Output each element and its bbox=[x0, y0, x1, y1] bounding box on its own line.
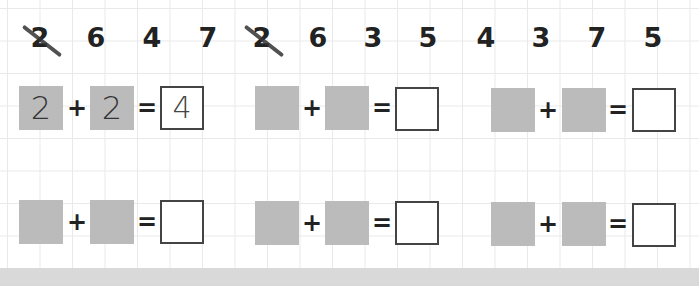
plus-sign: + bbox=[537, 202, 559, 246]
equals-sign: = bbox=[607, 202, 629, 246]
addend-box[interactable] bbox=[491, 88, 535, 132]
addend-box[interactable] bbox=[255, 86, 299, 130]
number-item: 4 bbox=[137, 22, 167, 54]
number-item: 5 bbox=[413, 22, 443, 54]
number-item: 6 bbox=[81, 22, 111, 54]
plus-sign: + bbox=[301, 86, 323, 130]
equals-sign: = bbox=[136, 200, 158, 244]
result-box[interactable]: 4 bbox=[160, 86, 204, 130]
addend-box[interactable] bbox=[90, 200, 134, 244]
plus-sign: + bbox=[66, 200, 88, 244]
plus-sign: + bbox=[301, 201, 323, 245]
result-box[interactable] bbox=[632, 203, 676, 247]
equals-sign: = bbox=[371, 86, 393, 130]
result-box[interactable] bbox=[632, 88, 676, 132]
bottom-band bbox=[0, 268, 699, 286]
result-box[interactable] bbox=[395, 87, 439, 131]
number-item: 6 bbox=[303, 22, 333, 54]
equals-sign: = bbox=[607, 88, 629, 132]
plus-sign: + bbox=[537, 88, 559, 132]
addend-box[interactable] bbox=[562, 88, 606, 132]
equals-sign: = bbox=[371, 201, 393, 245]
plus-sign: + bbox=[66, 86, 88, 130]
addend-box[interactable]: 2 bbox=[19, 86, 63, 130]
number-item: 3 bbox=[526, 22, 556, 54]
addend-box[interactable] bbox=[562, 202, 606, 246]
addend-box[interactable]: 2 bbox=[90, 86, 134, 130]
equals-sign: = bbox=[136, 86, 158, 130]
addend-box[interactable] bbox=[325, 86, 369, 130]
result-box[interactable] bbox=[395, 201, 439, 245]
addend-box[interactable] bbox=[325, 201, 369, 245]
number-item: 7 bbox=[193, 22, 223, 54]
result-box[interactable] bbox=[160, 200, 204, 244]
number-item: 3 bbox=[358, 22, 388, 54]
number-item: 7 bbox=[582, 22, 612, 54]
addend-box[interactable] bbox=[491, 202, 535, 246]
addend-box[interactable] bbox=[19, 200, 63, 244]
addend-box[interactable] bbox=[255, 201, 299, 245]
number-item: 4 bbox=[471, 22, 501, 54]
number-item: 5 bbox=[638, 22, 668, 54]
